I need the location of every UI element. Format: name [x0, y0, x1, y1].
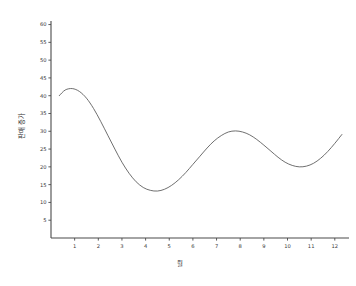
x-tick-label: 7	[215, 243, 218, 249]
y-tick-label: 5	[43, 217, 46, 223]
sales-increase-line	[59, 89, 342, 192]
y-tick-label: 60	[40, 21, 47, 27]
y-tick-label: 15	[40, 182, 47, 188]
chart-canvas: 51015202530354045505560 판매 증가 1234567891…	[0, 0, 356, 286]
y-axis-group: 51015202530354045505560 판매 증가	[17, 21, 51, 238]
data-series-group	[59, 89, 342, 192]
line-chart-figure: 51015202530354045505560 판매 증가 1234567891…	[0, 0, 356, 286]
y-axis-tick-labels: 51015202530354045505560	[40, 21, 47, 223]
y-tick-label: 40	[40, 93, 47, 99]
y-axis-title: 판매 증가	[17, 113, 26, 139]
x-tick-label: 11	[308, 243, 315, 249]
y-tick-label: 45	[40, 75, 47, 81]
y-tick-label: 20	[40, 164, 47, 170]
y-tick-label: 25	[40, 146, 47, 152]
y-tick-label: 10	[40, 199, 47, 205]
x-tick-label: 6	[191, 243, 194, 249]
x-tick-label: 1	[73, 243, 76, 249]
x-tick-label: 10	[284, 243, 291, 249]
x-tick-label: 3	[120, 243, 123, 249]
x-tick-label: 5	[168, 243, 171, 249]
y-tick-label: 35	[40, 110, 47, 116]
x-tick-label: 8	[239, 243, 242, 249]
x-tick-label: 2	[97, 243, 100, 249]
x-tick-label: 9	[262, 243, 265, 249]
x-axis-tick-labels: 123456789101112	[73, 243, 338, 249]
x-axis-title: 월	[177, 259, 183, 268]
y-tick-label: 55	[40, 39, 47, 45]
x-tick-label: 12	[332, 243, 339, 249]
x-tick-label: 4	[144, 243, 148, 249]
y-tick-label: 50	[40, 57, 47, 63]
y-tick-label: 30	[40, 128, 47, 134]
x-axis-group: 123456789101112 월	[51, 238, 349, 268]
